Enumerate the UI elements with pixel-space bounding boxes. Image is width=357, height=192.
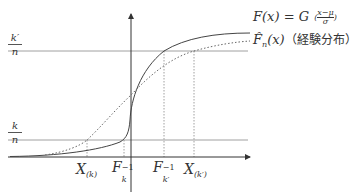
legend-arg: (x) — [267, 32, 284, 47]
label-f-kp-inv: F−1k′ — [153, 160, 177, 174]
label-sub: (k) — [86, 170, 97, 179]
label-k-over-n: k n — [8, 120, 22, 145]
fraction-numerator: k — [8, 120, 22, 131]
label-sub: k — [122, 176, 127, 184]
fraction-numerator: k′ — [8, 32, 22, 43]
true-cdf-curve — [10, 33, 250, 157]
label-x-k: X(k) — [76, 162, 97, 179]
legend-empirical-cdf: F̂n(x)（経験分布） — [253, 33, 357, 49]
fraction-bar — [8, 44, 22, 45]
legend-symbol: F̂ — [253, 32, 262, 47]
label-main: X — [76, 161, 86, 177]
cdf-diagram — [0, 0, 357, 192]
fraction-denominator: n — [8, 134, 22, 145]
fraction-bar — [8, 132, 22, 133]
legend-true-cdf: F(x) = G (x−μσ) — [253, 9, 337, 26]
empirical-cdf-curve — [45, 41, 250, 155]
label-sup: −1 — [122, 164, 134, 172]
label-sup: −1 — [163, 164, 175, 172]
label-x-kp: X(k′) — [184, 162, 207, 179]
label-main: F — [112, 159, 122, 175]
label-main: F — [153, 159, 163, 175]
legend-note: （経験分布） — [285, 33, 357, 47]
label-f-k-inv: F−1k — [112, 160, 136, 174]
fraction-denominator: σ — [317, 18, 333, 26]
label-sub: (k′) — [194, 170, 207, 179]
label-main: X — [184, 161, 194, 177]
label-sub: k′ — [163, 176, 170, 184]
label-k-prime-over-n: k′ n — [8, 32, 22, 57]
legend-formula: F(x) = G — [253, 9, 309, 24]
fraction-denominator: n — [8, 46, 22, 57]
legend-fraction: (x−μσ) — [314, 9, 337, 26]
